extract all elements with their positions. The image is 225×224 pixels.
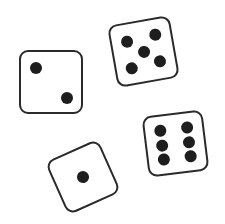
pip-icon — [120, 34, 134, 48]
pip-icon — [152, 54, 166, 68]
pip-icon — [30, 62, 42, 74]
pip-icon — [183, 149, 196, 162]
die-one: 1 — [45, 139, 122, 216]
die-value: 1 — [47, 163, 48, 164]
pip-icon — [136, 44, 150, 58]
pip-icon — [153, 123, 166, 136]
die-value: 6 — [143, 118, 144, 119]
die-five: 5 — [107, 15, 180, 88]
pip-icon — [148, 28, 162, 42]
pip-icon — [157, 153, 170, 166]
pip-icon — [155, 138, 168, 151]
die-value: 2 — [21, 52, 22, 53]
die-value: 5 — [109, 27, 110, 28]
pip-icon — [75, 169, 91, 185]
pip-icon — [180, 120, 193, 133]
die-two: 2 — [19, 50, 83, 114]
pip-icon — [61, 92, 73, 104]
pip-icon — [125, 60, 139, 74]
die-six: 6 — [141, 109, 209, 177]
pip-icon — [181, 135, 194, 148]
